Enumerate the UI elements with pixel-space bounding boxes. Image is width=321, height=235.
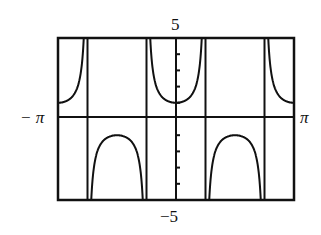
graph-plot: [0, 0, 321, 235]
x-min-label: − π: [20, 109, 44, 126]
y-min-label: −5: [160, 208, 178, 225]
y-max-label: 5: [171, 16, 180, 33]
x-max-label: π: [300, 109, 309, 126]
